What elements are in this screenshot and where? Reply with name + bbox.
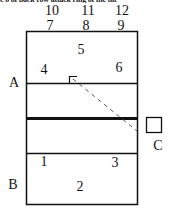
zone-4-label: 4: [41, 63, 48, 77]
zone-1-label: 1: [41, 155, 48, 169]
square-c-icon: [147, 118, 162, 133]
zone-8-label: 8: [83, 19, 90, 33]
side-label-b: B: [8, 178, 17, 192]
zone-5-label: 5: [78, 43, 85, 57]
zone-9-label: 9: [118, 19, 125, 33]
trajectory-dashed-line: [73, 79, 137, 131]
zone-3-label: 3: [112, 156, 119, 170]
zone-10-label: 10: [45, 4, 59, 18]
zone-6-label: 6: [116, 61, 123, 75]
zone-2-label: 2: [77, 180, 84, 194]
zone-12-label: 12: [115, 4, 129, 18]
side-label-c: C: [153, 139, 162, 153]
zone-11-label: 11: [81, 4, 94, 18]
zone-7-label: 7: [47, 19, 54, 33]
side-label-a: A: [9, 76, 19, 90]
